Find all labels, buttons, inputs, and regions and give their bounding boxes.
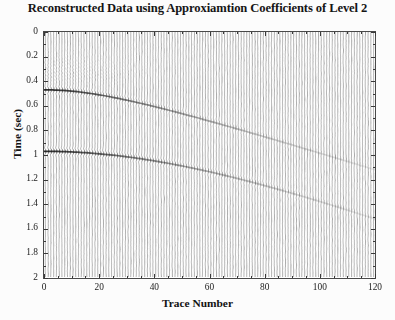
x-minor-tick [361,276,362,278]
x-tick-mark [265,274,266,278]
plot-area [43,31,376,279]
y-minor-tick [44,217,46,218]
x-tick-mark [210,274,211,278]
y-tick-mark [371,155,375,156]
x-tick-mark [265,32,266,36]
x-tick-label: 80 [248,282,282,292]
y-tick-label: 0.6 [8,99,38,109]
x-tick-label: 120 [358,282,392,292]
x-tick-label: 60 [193,282,227,292]
y-tick-label: 1.6 [8,222,38,232]
y-minor-tick [373,217,375,218]
x-minor-tick [292,276,293,278]
y-tick-label: 1.8 [8,247,38,257]
y-minor-tick [373,143,375,144]
y-tick-mark [44,204,48,205]
x-minor-tick [196,32,197,34]
y-tick-mark [371,229,375,230]
x-tick-label: 40 [137,282,171,292]
y-tick-mark [44,155,48,156]
y-tick-mark [44,180,48,181]
x-tick-mark [320,32,321,36]
y-tick-label: 0.8 [8,124,38,134]
y-tick-mark [371,180,375,181]
y-tick-mark [371,81,375,82]
x-minor-tick [334,276,335,278]
y-tick-mark [371,204,375,205]
y-minor-tick [44,192,46,193]
y-tick-mark [44,253,48,254]
y-tick-mark [44,57,48,58]
y-tick-label: 1 [8,149,38,159]
x-tick-label: 0 [27,282,61,292]
y-minor-tick [373,94,375,95]
y-tick-label: 0.4 [8,75,38,85]
x-minor-tick [85,276,86,278]
x-minor-tick [141,276,142,278]
x-minor-tick [72,276,73,278]
x-minor-tick [306,32,307,34]
x-minor-tick [168,32,169,34]
x-tick-mark [154,274,155,278]
x-minor-tick [223,32,224,34]
chart-title: Reconstructed Data using Approxiamtion C… [0,1,395,16]
y-tick-mark [371,278,375,279]
y-minor-tick [373,69,375,70]
x-minor-tick [237,32,238,34]
y-minor-tick [373,241,375,242]
x-minor-tick [223,276,224,278]
y-tick-mark [44,81,48,82]
x-tick-mark [154,32,155,36]
y-tick-mark [371,106,375,107]
y-tick-mark [44,229,48,230]
y-minor-tick [44,241,46,242]
x-minor-tick [58,32,59,34]
x-minor-tick [182,32,183,34]
x-minor-tick [141,32,142,34]
y-tick-mark [371,130,375,131]
x-tick-mark [375,32,376,36]
y-minor-tick [44,69,46,70]
x-tick-label: 100 [303,282,337,292]
x-tick-mark [375,274,376,278]
y-minor-tick [44,143,46,144]
x-minor-tick [113,32,114,34]
y-tick-label: 1.4 [8,198,38,208]
x-minor-tick [85,32,86,34]
x-minor-tick [72,32,73,34]
x-minor-tick [168,276,169,278]
seismic-wiggle-plot [44,32,375,278]
y-minor-tick [373,118,375,119]
x-minor-tick [58,276,59,278]
x-minor-tick [127,32,128,34]
x-minor-tick [361,32,362,34]
y-minor-tick [44,118,46,119]
y-tick-mark [44,278,48,279]
y-minor-tick [373,167,375,168]
y-minor-tick [44,266,46,267]
x-tick-mark [99,32,100,36]
x-minor-tick [347,32,348,34]
x-minor-tick [278,276,279,278]
x-axis-title: Trace Number [0,297,395,309]
y-minor-tick [373,266,375,267]
y-tick-mark [371,57,375,58]
y-tick-mark [44,106,48,107]
y-tick-mark [44,130,48,131]
y-minor-tick [44,94,46,95]
x-minor-tick [334,32,335,34]
x-minor-tick [347,276,348,278]
x-minor-tick [113,276,114,278]
x-minor-tick [251,276,252,278]
x-tick-mark [210,32,211,36]
x-tick-label: 20 [82,282,116,292]
x-tick-mark [99,274,100,278]
x-minor-tick [306,276,307,278]
y-minor-tick [373,192,375,193]
x-minor-tick [196,276,197,278]
x-tick-mark [320,274,321,278]
x-minor-tick [251,32,252,34]
x-minor-tick [182,276,183,278]
x-minor-tick [278,32,279,34]
y-tick-label: 0.2 [8,50,38,60]
